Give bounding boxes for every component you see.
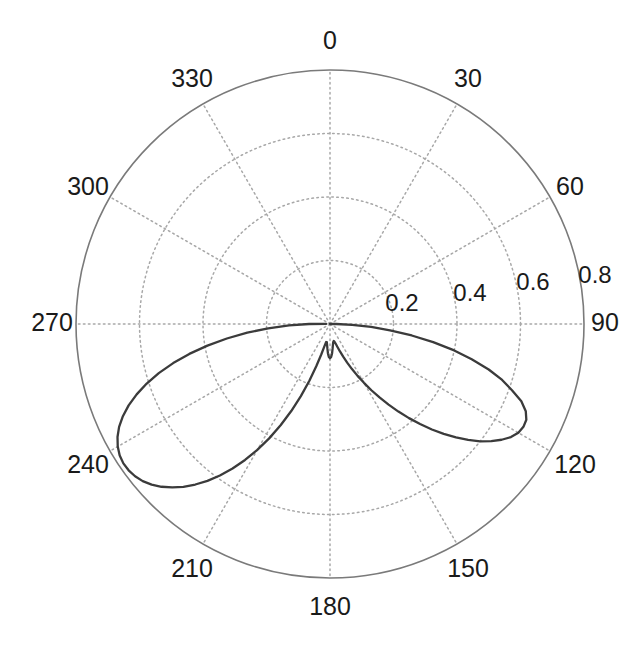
radial-tick-label-0-2: 0.2 [385,289,418,316]
angle-tick-label-180: 180 [309,592,351,620]
angular-gridline-330 [203,104,330,324]
angle-tick-label-330: 330 [171,64,213,92]
radial-tick-label-0-8: 0.8 [578,261,611,288]
angle-tick-label-270: 270 [31,308,73,336]
radial-tick-label-0-6: 0.6 [516,268,549,295]
angle-tick-label-150: 150 [447,554,489,582]
data-series-group [118,324,527,487]
angle-tick-label-120: 120 [554,450,596,478]
angular-gridline-300 [110,197,330,324]
angle-tick-label-210: 210 [171,554,213,582]
radiation-pattern-curve [118,324,527,487]
angle-tick-label-0: 0 [323,26,337,54]
polar-chart-figure: 0306090120150180210240270300330 0.20.40.… [0,0,642,650]
angle-tick-label-90: 90 [591,308,619,336]
radial-tick-label-0-4: 0.4 [453,279,486,306]
angular-gridline-150 [330,324,457,544]
radial-tick-labels: 0.20.40.60.8 [385,261,611,316]
angular-gridline-210 [203,324,330,544]
angular-gridline-60 [330,197,550,324]
polar-chart-svg: 0306090120150180210240270300330 0.20.40.… [0,0,642,650]
angular-tick-labels: 0306090120150180210240270300330 [31,26,619,620]
angle-tick-label-60: 60 [556,172,584,200]
angle-tick-label-30: 30 [454,64,482,92]
angle-tick-label-300: 300 [67,172,109,200]
angle-tick-label-240: 240 [67,450,109,478]
